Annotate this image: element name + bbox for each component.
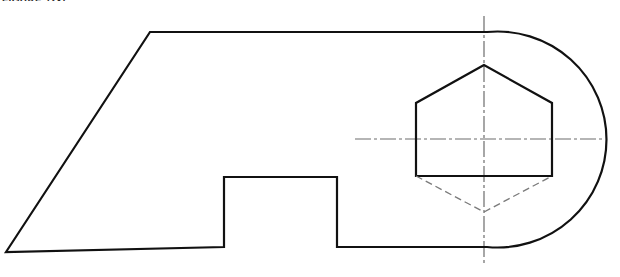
part-outline: [6, 32, 606, 253]
figure-page: FIGURE 12-1: [0, 0, 620, 277]
center-lines-group: [355, 16, 605, 266]
technical-drawing: [0, 0, 620, 277]
part-outline-group: [6, 32, 606, 253]
